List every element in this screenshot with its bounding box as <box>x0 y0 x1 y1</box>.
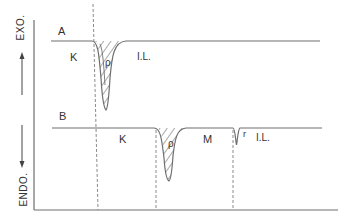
curve-b-region-k: K <box>119 134 126 145</box>
curve-a-peak-symbol: ρ <box>105 58 111 68</box>
curve-a-region-k: K <box>70 52 77 63</box>
endo-arrow-icon <box>20 125 25 168</box>
curve-a-region-il: I.L. <box>137 52 151 62</box>
curve-b-peak-symbol: ρ <box>168 139 174 149</box>
exo-arrow-icon <box>20 52 25 95</box>
curve-b-region-m: M <box>203 134 212 145</box>
endo-label: ENDO. <box>18 172 29 206</box>
curve-a-label: A <box>58 26 65 37</box>
curve-a-line <box>51 41 320 110</box>
curve-b-label: B <box>59 111 66 122</box>
curve-b-region-il: I.L. <box>256 133 270 143</box>
curve-b-line <box>52 128 322 181</box>
curve-b-small-peak-symbol: r <box>243 130 246 139</box>
diagram-canvas <box>0 0 349 222</box>
exo-label: EXO. <box>15 15 26 41</box>
dta-diagram: EXO. ENDO. A K I.L. ρ B K M I.L. ρ r <box>0 0 349 222</box>
dashed-line-slanted <box>93 4 98 210</box>
